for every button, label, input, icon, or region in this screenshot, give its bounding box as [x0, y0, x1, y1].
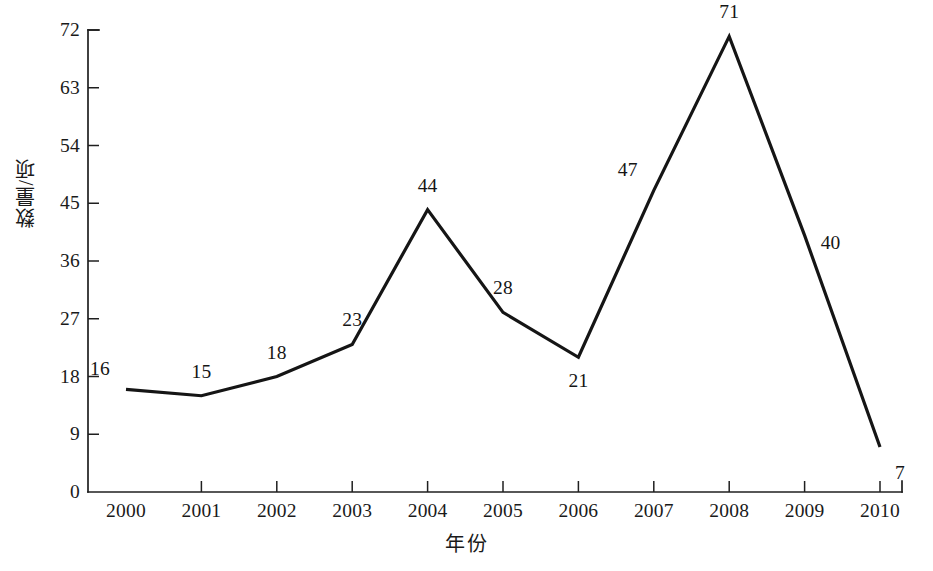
data-point-label: 28 — [493, 277, 513, 299]
x-axis-tick-label: 2004 — [408, 500, 448, 522]
y-axis-tick-label: 18 — [60, 366, 80, 388]
y-axis-tick-label: 27 — [60, 308, 80, 330]
x-axis-tick-label: 2006 — [558, 500, 598, 522]
x-axis-tick-label: 2002 — [257, 500, 297, 522]
data-point-label: 44 — [418, 175, 438, 197]
y-axis-tick-label: 63 — [60, 77, 80, 99]
x-axis-tick-label: 2000 — [106, 500, 146, 522]
y-axis-tick-label: 72 — [60, 19, 80, 41]
data-point-label: 16 — [90, 358, 110, 380]
chart-plot-area — [0, 0, 933, 571]
x-axis-tick-label: 2010 — [860, 500, 900, 522]
x-axis-ticks — [201, 481, 880, 492]
x-axis-tick-label: 2008 — [709, 500, 749, 522]
y-axis-tick-label: 45 — [60, 192, 80, 214]
y-axis-tick-label: 54 — [60, 135, 80, 157]
y-axis-tick-label: 0 — [70, 481, 80, 503]
data-point-label: 40 — [821, 232, 841, 254]
data-point-label: 47 — [618, 159, 638, 181]
y-axis-title: 数量/项 — [16, 158, 48, 228]
data-point-label: 21 — [568, 370, 588, 392]
x-axis-tick-label: 2005 — [483, 500, 523, 522]
data-point-label: 7 — [895, 462, 905, 484]
x-axis-tick-label: 2009 — [785, 500, 825, 522]
x-axis-tick-label: 2007 — [634, 500, 674, 522]
y-axis-tick-label: 36 — [60, 250, 80, 272]
data-point-label: 71 — [719, 1, 739, 23]
data-point-label: 23 — [342, 309, 362, 331]
x-axis-title: 年份 — [0, 528, 933, 557]
data-point-label: 18 — [267, 342, 287, 364]
line-chart: 0918273645546372 20002001200220032004200… — [0, 0, 933, 571]
x-axis-tick-label: 2003 — [332, 500, 372, 522]
data-series-line — [126, 36, 880, 447]
y-axis-tick-label: 9 — [70, 423, 80, 445]
axis-group — [88, 30, 902, 492]
data-point-label: 15 — [191, 361, 211, 383]
x-axis-tick-label: 2001 — [181, 500, 221, 522]
